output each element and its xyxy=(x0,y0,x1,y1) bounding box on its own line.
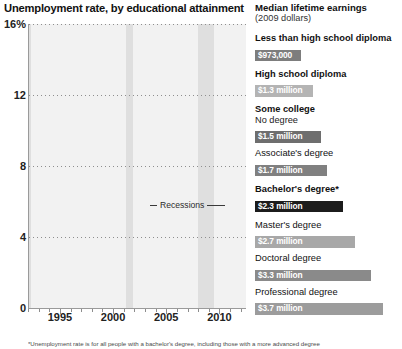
legend-value-bar: $2.7 million xyxy=(255,236,355,248)
footnote: *Unemployment rate is for all people wit… xyxy=(28,340,402,347)
gridline-4 xyxy=(29,237,246,238)
legend-panel: Median lifetime earnings (2009 dollars) … xyxy=(255,2,400,320)
legend-value-bar: $2.3 million xyxy=(255,201,343,213)
recession-leader-left xyxy=(150,205,157,206)
x-axis-labels: 1995200020052010 xyxy=(28,311,246,327)
legend-item[interactable]: Master's degree$2.7 million xyxy=(255,220,400,249)
legend-item[interactable]: Associate's degree$1.7 million xyxy=(255,148,400,177)
y-tick-12: 12 xyxy=(0,89,26,101)
page-title: Unemployment rate, by educational attain… xyxy=(4,2,254,15)
legend-item[interactable]: High school diploma$1.3 million xyxy=(255,69,400,98)
legend-value-bar: $3.3 million xyxy=(255,270,371,282)
recession-leader-right xyxy=(207,205,225,206)
x-axis-label: 2000 xyxy=(101,311,125,323)
y-axis-labels: 16% 12 8 4 0 xyxy=(0,24,26,309)
chart-plot-area xyxy=(28,24,246,309)
legend-item[interactable]: Less than high school diploma$973,000 xyxy=(255,33,400,62)
gridline-16 xyxy=(29,24,246,25)
gridline-12 xyxy=(29,95,246,96)
legend-value-bar: $1.7 million xyxy=(255,165,327,177)
recessions-annotation: Recessions xyxy=(150,199,225,211)
legend-item-label: Less than high school diploma xyxy=(255,33,400,44)
legend-title: Median lifetime earnings xyxy=(255,2,400,13)
x-axis-label: 1995 xyxy=(48,311,72,323)
x-axis-label: 2010 xyxy=(207,311,231,323)
legend-subtitle: (2009 dollars) xyxy=(255,13,400,24)
y-axis-line xyxy=(28,24,29,309)
y-tick-4: 4 xyxy=(0,231,26,243)
y-tick-16: 16% xyxy=(0,18,26,30)
legend-item[interactable]: Bachelor's degree*$2.3 million xyxy=(255,184,400,213)
legend-value-bar: $3.7 million xyxy=(255,303,383,315)
legend-item-label: Professional degree xyxy=(255,287,400,298)
legend-entries: Less than high school diploma$973,000Hig… xyxy=(255,33,400,320)
legend-item-label: Doctoral degree xyxy=(255,253,400,264)
gridline-8 xyxy=(29,166,246,167)
x-axis-label: 2005 xyxy=(154,311,178,323)
legend-item[interactable]: Doctoral degree$3.3 million xyxy=(255,253,400,282)
legend-item-label: Associate's degree xyxy=(255,148,400,159)
legend-item[interactable]: Professional degree$3.7 million xyxy=(255,287,400,316)
legend-value-bar: $973,000 xyxy=(255,50,301,62)
legend-value-bar: $1.5 million xyxy=(255,131,321,143)
y-tick-0: 0 xyxy=(0,302,26,314)
infographic-root: Unemployment rate, by educational attain… xyxy=(0,0,402,349)
legend-item-sublabel: No degree xyxy=(255,115,400,126)
legend-item-label: Master's degree xyxy=(255,220,400,231)
legend-item-label: High school diploma xyxy=(255,69,400,80)
legend-item-label: Bachelor's degree* xyxy=(255,184,400,195)
legend-item-label: Some college xyxy=(255,104,400,115)
legend-spacer xyxy=(255,316,400,320)
legend-item[interactable]: Some collegeNo degree$1.5 million xyxy=(255,104,400,143)
y-tick-8: 8 xyxy=(0,160,26,172)
recessions-label: Recessions xyxy=(160,200,204,210)
legend-value-bar: $1.3 million xyxy=(255,85,313,97)
